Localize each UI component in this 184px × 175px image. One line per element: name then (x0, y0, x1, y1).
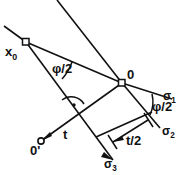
right-angle-arc (62, 97, 84, 104)
label-x0: x0 (5, 45, 17, 61)
square-node-origin (119, 80, 126, 87)
figure-canvas (0, 0, 184, 175)
label-sigma2: σ2 (162, 125, 175, 141)
segment-quad-lower-right (96, 112, 152, 137)
label-origin: 0 (127, 68, 134, 81)
label-sigma3: σ3 (104, 158, 117, 174)
dimension-arrow-t-half-start (113, 136, 124, 142)
segment-origin-prime-to-origin (41, 83, 122, 141)
geometry-figure: x0 0 0' φ/2 φ/2 σ1 σ2 σ3 t t/2 (0, 0, 184, 175)
right-angle-dot (72, 103, 75, 106)
dimension-tick-t-half-start (108, 135, 117, 149)
label-origin-prime: 0' (30, 144, 40, 157)
label-sigma1: σ1 (163, 90, 176, 106)
label-t-half: t/2 (126, 134, 141, 147)
label-t: t (63, 128, 67, 141)
label-phi-half-left: φ/2 (52, 62, 72, 75)
square-node-x0 (23, 39, 30, 46)
